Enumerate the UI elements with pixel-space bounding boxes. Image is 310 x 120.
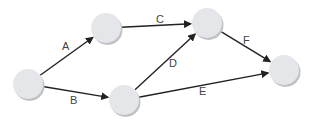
node-n4 [192, 8, 224, 40]
edge-label-a: A [62, 40, 70, 52]
edge-label-c: C [156, 13, 164, 25]
node-circle [13, 69, 43, 99]
node-circle [109, 85, 139, 115]
edge-label-e: E [199, 85, 206, 97]
edges-layer [40, 24, 270, 98]
node-circle [91, 13, 121, 43]
node-circle [269, 55, 299, 85]
node-n2 [91, 13, 123, 45]
edge-label-d: D [169, 57, 177, 69]
activity-network-diagram: ABCDEF [0, 0, 310, 120]
node-circle [192, 8, 222, 38]
node-n5 [269, 55, 301, 87]
edge-d-arrow [135, 34, 195, 90]
node-n1 [13, 69, 45, 101]
edge-label-f: F [243, 34, 250, 46]
edge-label-b: B [70, 94, 77, 106]
